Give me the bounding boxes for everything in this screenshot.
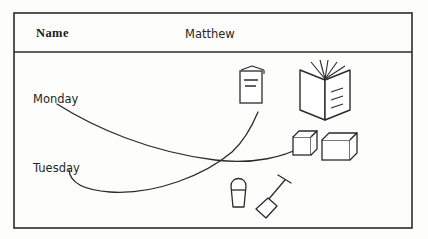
worksheet-page: Name Matthew Monday Tuesday [0,0,428,239]
large-box-icon [322,133,357,160]
bucket-icon [231,179,246,208]
name-field-value[interactable]: Matthew [185,27,235,41]
row-label-monday: Monday [33,92,78,106]
spade-icon [256,175,291,218]
row-label-tuesday: Tuesday [33,161,80,175]
name-field-label: Name [36,26,69,41]
tuesday-connector [69,112,258,192]
worksheet-frame [14,13,412,228]
open-book-icon [300,60,350,120]
small-cube-icon [293,131,317,155]
monday-connector [57,104,302,161]
closed-booklet-icon [240,66,264,103]
